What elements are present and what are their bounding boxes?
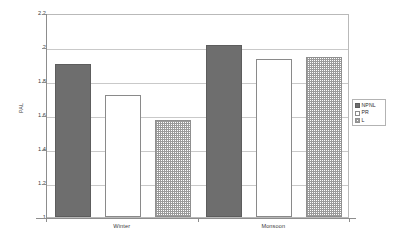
plot-area	[46, 14, 349, 218]
gridline	[47, 151, 348, 152]
y-tick-label: 1.2	[10, 181, 46, 187]
bar-pr-winter	[105, 95, 141, 217]
gridline	[47, 49, 348, 50]
y-tick-mark	[42, 184, 46, 185]
gridline	[47, 83, 348, 84]
y-tick-label: 2	[10, 45, 46, 51]
legend-label: NPNL	[362, 103, 376, 108]
y-tick-label: 1.8	[10, 79, 46, 85]
legend-swatch-npnl-icon	[355, 103, 360, 108]
legend-swatch-l-icon	[355, 118, 360, 123]
x-axis-label-winter: Winter	[82, 224, 162, 230]
bar-pr-monsoon	[256, 59, 292, 217]
bar-npnl-monsoon	[206, 45, 242, 217]
x-tick-mark	[46, 218, 47, 222]
legend-label: PR	[362, 110, 369, 115]
y-axis-title: PAL	[18, 103, 24, 113]
y-tick-mark	[42, 116, 46, 117]
y-tick-mark	[42, 14, 46, 15]
gridline	[47, 185, 348, 186]
bar-l-monsoon	[306, 57, 342, 217]
y-tick-mark	[42, 82, 46, 83]
legend-swatch-pr-icon	[355, 111, 360, 116]
legend-item-pr: PR	[355, 109, 383, 116]
y-tick-label: 1	[10, 215, 46, 221]
x-axis-line	[36, 218, 356, 219]
x-axis-label-monsoon: Monsoon	[233, 224, 313, 230]
bar-l-winter	[155, 120, 191, 217]
legend-item-l: L	[355, 117, 383, 124]
legend: NPNLPRL	[352, 99, 386, 126]
x-tick-mark	[198, 218, 199, 222]
y-tick-label: 2.2	[10, 11, 46, 17]
bar-npnl-winter	[55, 64, 91, 217]
legend-label: L	[362, 118, 365, 123]
x-tick-mark	[349, 218, 350, 222]
legend-item-npnl: NPNL	[355, 102, 383, 109]
gridline	[47, 117, 348, 118]
y-tick-mark	[42, 48, 46, 49]
y-tick-label: 1.4	[10, 147, 46, 153]
y-tick-mark	[42, 150, 46, 151]
y-tick-label: 1.6	[10, 113, 46, 119]
bar-chart: 11.21.41.61.822.2 PAL WinterMonsoon NPNL…	[0, 0, 398, 248]
y-axis-line	[46, 14, 47, 219]
